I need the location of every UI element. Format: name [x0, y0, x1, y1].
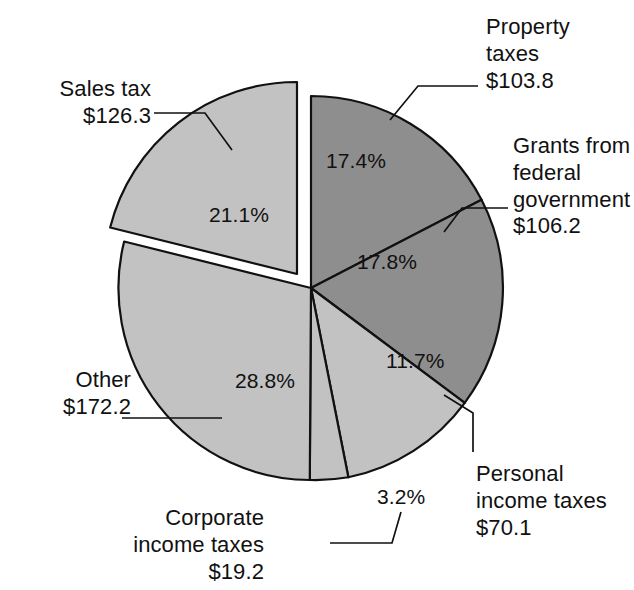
pie-label-grants-line1: Grants from — [513, 133, 630, 160]
pie-label-grants-line2: federal — [513, 160, 630, 187]
leader-line-property-taxes — [390, 86, 478, 120]
pie-percent-property-taxes: 17.4% — [326, 149, 386, 173]
pie-label-corporate-income-taxes-value: $19.2 — [133, 559, 264, 586]
pie-percent-personal-income-taxes: 11.7% — [386, 349, 445, 373]
pie-label-personal-income-taxes-value: $70.1 — [476, 515, 607, 542]
pie-label-corporate-income-taxes: Corporate income taxes $19.2 — [133, 505, 264, 585]
pie-percent-sales-tax: 21.1% — [209, 203, 269, 227]
pie-label-personal-income-taxes-line1: Personal — [476, 461, 607, 488]
leader-line-corporate-income-taxes — [330, 512, 401, 543]
pie-label-grants-value: $106.2 — [513, 213, 630, 240]
pie-label-property-taxes-value: $103.8 — [486, 68, 570, 95]
pie-label-grants-line3: government — [513, 187, 630, 214]
pie-label-personal-income-taxes-line2: income taxes — [476, 488, 607, 515]
pie-slice-other[interactable] — [118, 242, 311, 480]
pie-percent-corporate-income-taxes: 3.2% — [377, 485, 425, 509]
pie-label-sales-tax-value: $126.3 — [60, 103, 151, 130]
pie-label-other-value: $172.2 — [63, 394, 131, 421]
pie-percent-other: 28.8% — [235, 369, 295, 393]
pie-label-corporate-income-taxes-line2: income taxes — [133, 532, 264, 559]
pie-label-grants: Grants from federal government $106.2 — [513, 133, 630, 240]
pie-label-sales-tax-line1: Sales tax — [60, 76, 151, 103]
pie-label-other: Other $172.2 — [63, 367, 131, 421]
pie-label-sales-tax: Sales tax $126.3 — [60, 76, 151, 130]
pie-label-property-taxes-line1: Property — [486, 14, 570, 41]
pie-label-corporate-income-taxes-line1: Corporate — [133, 505, 264, 532]
pie-percent-grants: 17.8% — [357, 250, 417, 274]
pie-chart: 21.1% 17.4% 17.8% 11.7% 3.2% 28.8% Sales… — [0, 0, 634, 590]
pie-label-property-taxes: Property taxes $103.8 — [486, 14, 570, 94]
pie-label-other-line1: Other — [63, 367, 131, 394]
pie-label-personal-income-taxes: Personal income taxes $70.1 — [476, 461, 607, 541]
pie-label-property-taxes-line2: taxes — [486, 41, 570, 68]
